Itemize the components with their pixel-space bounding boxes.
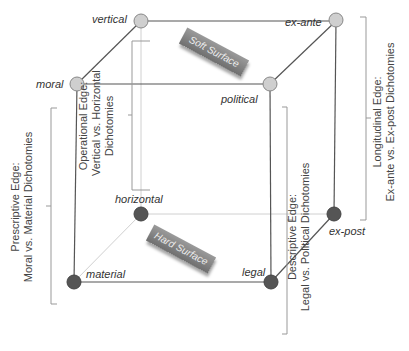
node-material (67, 275, 81, 289)
label-ex-post: ex-post (329, 225, 365, 237)
node-legal (264, 275, 278, 289)
prescriptive-subtitle: Moral vs. Material Dichotomies (22, 127, 35, 287)
prescriptive-edge-label: Prescriptive Edge: Moral vs. Material Di… (9, 127, 37, 287)
operational-subtitle: Vertical vs. Horizontal (90, 76, 103, 176)
prescriptive-bracket (51, 108, 57, 304)
label-ex-ante: ex-ante (285, 16, 322, 28)
label-political: political (221, 93, 258, 105)
longitudinal-edge-label: Longitudinal Edge: Ex-ante vs. Ex-post D… (371, 42, 399, 202)
label-moral: moral (36, 78, 64, 90)
node-horizontal (134, 207, 148, 221)
label-legal: legal (242, 266, 265, 278)
node-ex-ante (329, 13, 343, 27)
operational-title: Operational Edge: (77, 76, 90, 176)
longitudinal-bracket (360, 17, 366, 220)
descriptive-subtitle: Legal vs. Political Dichotomies (299, 157, 312, 317)
operational-edge-label: Operational Edge: Vertical vs. Horizonta… (77, 76, 119, 176)
node-political (263, 77, 277, 91)
prescriptive-title: Prescriptive Edge: (9, 127, 22, 287)
longitudinal-title: Longitudinal Edge: (371, 42, 384, 202)
node-ex-post (327, 207, 341, 221)
node-vertical (134, 14, 148, 28)
operational-subtitle-2: Dichotomies (103, 76, 116, 176)
descriptive-title: Descriptive Edge: (286, 157, 299, 317)
label-horizontal: horizontal (115, 193, 163, 205)
descriptive-edge-label: Descriptive Edge: Legal vs. Political Di… (286, 157, 314, 317)
longitudinal-subtitle: Ex-ante vs. Ex-post Dichotomies (384, 42, 397, 202)
label-vertical: vertical (92, 13, 127, 25)
label-material: material (86, 268, 125, 280)
